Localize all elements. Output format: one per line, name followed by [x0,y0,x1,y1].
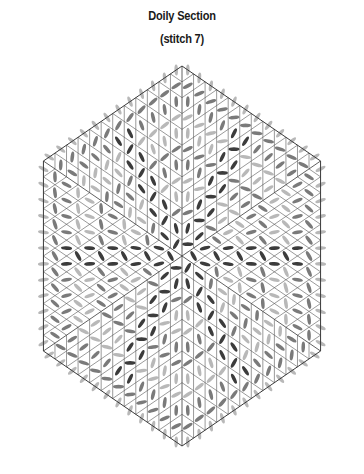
hexagon-outline [43,66,320,446]
doily-hexagon-diagram [0,0,364,474]
